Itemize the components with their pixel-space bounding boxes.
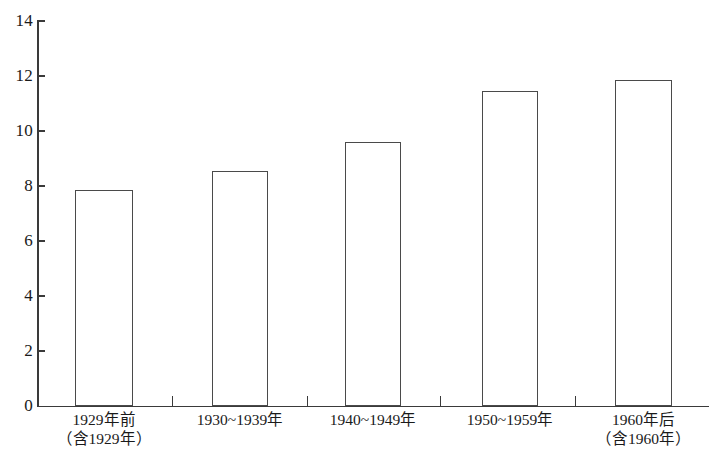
x-axis-tick xyxy=(575,396,576,406)
bar xyxy=(345,142,401,406)
x-axis-category-label-line1: 1929年前 xyxy=(73,411,136,428)
x-axis-tick xyxy=(307,396,308,406)
x-axis-tick xyxy=(440,396,441,406)
bar-chart: 02468101214 1929年前（含1929年）1930~1939年1940… xyxy=(0,0,709,453)
bar xyxy=(75,190,133,406)
x-axis-category-label-line1: 1950~1959年 xyxy=(467,411,553,428)
x-axis-category-label-line1: 1960年后 xyxy=(612,411,675,428)
x-axis-category-label-line1: 1940~1949年 xyxy=(330,411,416,428)
plot-area xyxy=(0,0,709,453)
x-axis-tick xyxy=(172,396,173,406)
x-axis-category-label-line2: （含1929年） xyxy=(14,429,194,448)
bar xyxy=(482,91,538,406)
x-axis-category-label-line1: 1930~1939年 xyxy=(197,411,283,428)
x-axis-category-label-line2: （含1960年） xyxy=(554,429,709,448)
x-axis-category-label: 1960年后（含1960年） xyxy=(554,410,709,448)
bar xyxy=(212,171,268,406)
bar xyxy=(615,80,672,406)
